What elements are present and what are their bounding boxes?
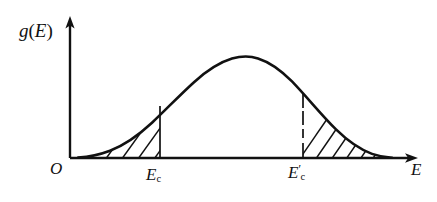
density-of-states-curve	[78, 57, 392, 158]
mobility-edge-lower-label: Ec	[146, 166, 161, 185]
figure-root: g(E) O Ec E′c E	[0, 0, 437, 202]
y-axis-label: g(E)	[19, 21, 53, 40]
density-of-states-figure	[0, 0, 437, 202]
origin-label: O	[50, 160, 62, 177]
hatch-group-left-tail	[78, 103, 190, 187]
mobility-edge-upper-label: E′c	[288, 164, 305, 183]
x-axis-label: E	[411, 161, 421, 178]
y-axis	[65, 16, 74, 158]
hatch-group-right-tail	[292, 106, 410, 202]
